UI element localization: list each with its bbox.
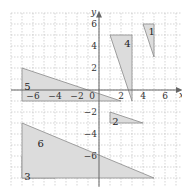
y-tick-label: 4 [91,41,97,51]
y-tick-label: −4 [84,129,98,139]
coordinate-diagram: −6−4−2246642−2−4−60xy123456 [0,0,182,190]
triangle-label: 3 [24,171,30,182]
y-tick-label: −6 [84,151,98,161]
x-tick-label: −2 [70,91,83,101]
x-tick-label: 6 [162,91,168,101]
triangle-label: 6 [37,138,43,149]
triangle-label: 1 [149,26,155,37]
x-tick-label: 4 [140,91,146,101]
y-tick-label: 6 [91,19,97,29]
y-tick-label: −2 [84,107,97,117]
x-tick-label: 2 [118,91,124,101]
y-axis-label: y [90,7,97,17]
x-tick-label: −4 [48,91,62,101]
triangle-label: 5 [24,81,30,92]
x-tick-label: −6 [26,91,40,101]
y-tick-label: 2 [91,63,97,73]
origin-label: 0 [89,91,95,101]
triangle-label: 2 [112,116,118,127]
y-arrow-icon [96,11,102,18]
x-axis-label: x [179,90,182,100]
triangle-label: 4 [124,38,130,49]
